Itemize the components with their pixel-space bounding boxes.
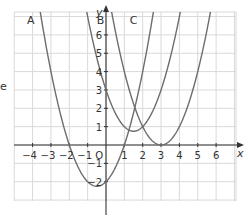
x-tick-label: 4 [176,150,182,161]
y-tick-label: 2 [96,103,102,114]
x-tick-label: 3 [158,150,164,161]
y-tick-label: −2 [87,177,102,188]
y-tick-label: 6 [96,30,102,41]
y-tick-label: 5 [96,48,102,59]
edge-text-fragment: e [0,80,7,93]
x-tick-label: −4 [22,150,37,161]
x-tick-label: 2 [140,150,146,161]
axes [14,5,244,215]
curve-label-C: C [130,14,138,27]
x-tick-label: −3 [41,150,56,161]
x-tick-label: 6 [213,150,219,161]
curve-B [14,0,236,131]
x-tick-label: −2 [59,150,74,161]
curve-C [14,0,236,145]
x-tick-label: 5 [195,150,201,161]
x-tick-label: 1 [121,150,127,161]
curve-label-A: A [27,14,35,27]
y-tick-label: 3 [96,85,102,96]
y-axis-arrow-icon [103,5,109,12]
axis-labels: −4−3−2−1123456−2−1123456OxyABC [22,6,244,188]
origin-label: O [95,150,103,161]
grid-lines [14,12,236,201]
curve-label-B: B [97,14,105,27]
parabola-graph: −4−3−2−1123456−2−1123456OxyABC e [0,0,248,218]
y-tick-label: 4 [96,67,102,78]
y-tick-label: 1 [96,122,102,133]
x-axis-name: x [236,147,244,160]
